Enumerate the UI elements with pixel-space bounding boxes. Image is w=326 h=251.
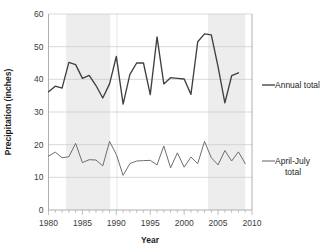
y-tick-label-10: 10 [34,172,44,182]
legend-label-annual-total: Annual total [275,80,320,90]
legend-label-april-july-line2: total [285,167,301,177]
y-axis-tick-labels: 0102030405060 [34,9,44,215]
y-tick-label-0: 0 [39,205,44,215]
x-axis-title: Year [141,235,160,245]
y-tick-label-50: 50 [34,42,44,52]
legend-april-july-total: April-July total [262,156,311,177]
x-axis-minor-ticks [49,210,253,215]
x-tick-label-1990: 1990 [107,218,126,228]
legend-annual-total: Annual total [262,80,320,90]
y-axis-title: Precipitation (inches) [3,69,13,156]
y-tick-label-40: 40 [34,74,44,84]
x-tick-label-1985: 1985 [73,218,92,228]
x-axis-tick-labels: 1980198519901995200020052010 [39,218,262,228]
chart-canvas: 0102030405060 19801985199019952000200520… [0,0,326,251]
y-tick-label-60: 60 [34,9,44,19]
legend-label-april-july-line1: April-July [275,156,311,166]
precipitation-line-chart: 0102030405060 19801985199019952000200520… [0,0,326,251]
x-tick-label-2010: 2010 [243,218,262,228]
x-tick-label-2000: 2000 [175,218,194,228]
y-tick-label-20: 20 [34,140,44,150]
y-tick-label-30: 30 [34,107,44,117]
x-tick-label-1980: 1980 [39,218,58,228]
x-tick-label-1995: 1995 [141,218,160,228]
x-tick-label-2005: 2005 [209,218,228,228]
